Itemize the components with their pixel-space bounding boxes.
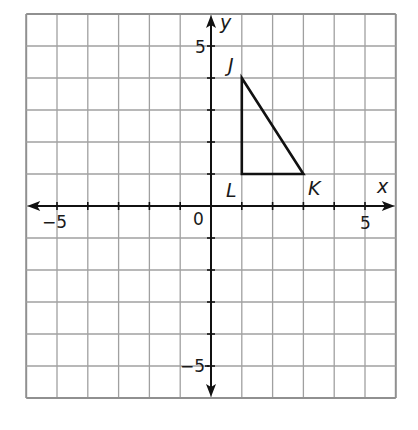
vertex-label-j: J bbox=[224, 54, 234, 76]
y-axis-label: y bbox=[219, 11, 232, 33]
coordinate-plane: x y 0 −5 5 5 −5 J K L bbox=[0, 0, 418, 430]
origin-label: 0 bbox=[193, 209, 204, 229]
y-tick-label-neg5: −5 bbox=[180, 356, 205, 376]
x-tick-label-5: 5 bbox=[360, 213, 371, 233]
x-axis-label: x bbox=[376, 175, 389, 197]
labels: x y 0 −5 5 5 −5 J K L bbox=[42, 11, 389, 376]
x-tick-label-neg5: −5 bbox=[42, 212, 67, 232]
vertex-label-l: L bbox=[226, 179, 237, 201]
y-tick-label-5: 5 bbox=[195, 37, 206, 57]
axes bbox=[27, 15, 395, 397]
vertex-label-k: K bbox=[308, 177, 322, 199]
